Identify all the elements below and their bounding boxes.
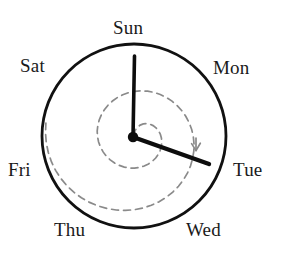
day-label-mon: Mon xyxy=(213,58,250,78)
day-label-tue: Tue xyxy=(233,160,262,180)
day-label-sat: Sat xyxy=(20,56,45,76)
hour-hand xyxy=(133,137,209,164)
center-hub xyxy=(128,132,138,142)
day-label-wed: Wed xyxy=(186,220,221,240)
clock-diagram xyxy=(0,0,283,257)
weekly-clock-figure: Sun Mon Tue Wed Thu Fri Sat xyxy=(0,0,283,257)
day-label-thu: Thu xyxy=(54,220,85,240)
day-label-sun: Sun xyxy=(113,18,143,38)
minute-hand xyxy=(133,56,135,137)
day-label-fri: Fri xyxy=(8,160,31,180)
